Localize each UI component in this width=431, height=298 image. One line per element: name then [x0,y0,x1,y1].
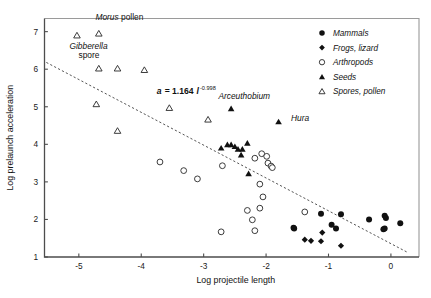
legend-item-arthropods[interactable]: Arthropods [319,58,373,67]
data-point [318,238,324,244]
data-point [239,146,246,152]
data-point [228,106,235,112]
data-point [333,225,339,231]
data-point [252,228,258,234]
y-tick-label: 5 [33,102,38,112]
x-tick-label: 0 [389,261,394,271]
y-tick-label: 7 [33,27,38,37]
data-point [218,229,224,235]
data-point [264,153,270,159]
data-point [318,211,324,217]
data-point [291,225,297,231]
plot-axes [45,19,420,258]
data-point [244,140,251,146]
legend-marker-open-triangle [319,89,325,94]
annotation-arceuthobium: Arceuthobium [217,91,270,101]
data-point [218,145,225,151]
legend-label: Spores, pollen [333,87,386,96]
data-point [338,211,344,217]
data-point [219,163,225,169]
data-point [257,205,263,211]
data-point [157,159,163,165]
annotation-gibberella-spore: spore [78,50,99,60]
legend-marker-open-circle [319,60,324,65]
data-point [249,217,255,223]
data-point [397,220,403,226]
data-point [96,65,103,71]
x-tick-label: -3 [200,261,208,271]
data-point [238,152,245,158]
legend-label: Seeds [333,73,356,82]
data-point [181,168,187,174]
fit-equation: a= 1.164l-0.998 [157,85,216,95]
data-point [93,101,100,107]
data-point [114,128,121,134]
data-point [302,209,308,215]
data-point [308,238,314,244]
data-point [166,105,173,111]
data-point [275,119,282,125]
legend-marker-filled-diamond [319,45,325,51]
legend-item-spores-pollen[interactable]: Spores, pollen [319,87,386,96]
legend-label: Mammals [333,29,368,38]
plot-frame [45,19,420,258]
x-axis-title: Log projectile length [196,275,275,285]
data-point [319,229,325,235]
data-point [114,65,121,71]
data-point [96,30,103,36]
legend-label: Arthropods [332,58,373,67]
x-tick-label: -1 [325,261,333,271]
data-point [338,243,344,249]
legend-marker-filled-circle [319,30,325,36]
y-tick-label: 1 [33,252,38,262]
legend-item-seeds[interactable]: Seeds [319,73,356,82]
y-tick-label: 4 [33,139,38,149]
data-point [366,216,372,222]
annotation-hura: Hura [291,113,309,123]
data-point [205,116,212,122]
data-point [260,194,266,200]
legend-label: Frogs, lizard [333,44,378,53]
x-tick-label: -2 [262,261,270,271]
annotation-morus-pollen: Morus pollen [95,12,143,22]
data-point [269,165,275,171]
legend-marker-filled-triangle [319,74,325,79]
data-point [383,215,389,221]
data-point [74,32,81,38]
data-point [257,181,263,187]
y-tick-label: 6 [33,64,38,74]
data-point [382,225,388,231]
data-point [244,208,250,214]
legend-item-frogs-lizard[interactable]: Frogs, lizard [319,44,378,53]
x-tick-label: -5 [75,261,83,271]
series-arthropods [157,151,308,235]
data-point [245,171,252,177]
x-tick-label: -4 [138,261,146,271]
y-axis-title: Log prelaunch acceleration [5,85,15,191]
data-point [141,67,148,73]
y-tick-label: 2 [33,214,38,224]
legend-item-mammals[interactable]: Mammals [319,29,368,38]
data-point [252,155,258,161]
data-point [195,176,201,182]
series-mammals [291,211,404,232]
figure-container: -5-4-3-2-101234567Log projectile lengthL… [0,0,431,298]
scatter-plot: -5-4-3-2-101234567Log projectile lengthL… [0,0,431,298]
data-point [302,237,308,243]
series-frogs-lizard [302,229,344,248]
y-tick-label: 3 [33,177,38,187]
